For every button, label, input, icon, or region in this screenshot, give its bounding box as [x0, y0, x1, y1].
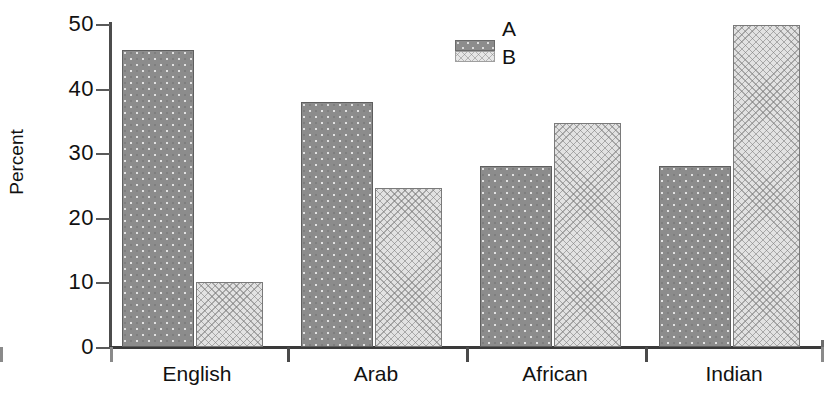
legend-swatch-a: [455, 40, 495, 51]
x-label-african: African: [490, 362, 620, 386]
figure-caption: [0, 392, 833, 403]
bar-english-b[interactable]: [196, 282, 263, 347]
y-tick-label-50: 50: [48, 13, 94, 35]
y-tick-label-20-wrap: 20: [38, 207, 94, 229]
y-tick-label-50-wrap: 50: [38, 13, 94, 35]
legend: A B: [452, 18, 572, 70]
y-tick-20: [96, 218, 110, 220]
legend-swatch-b: [455, 51, 495, 62]
x-tick-right-edge: [821, 347, 824, 362]
bar-arab-a[interactable]: [301, 102, 373, 347]
y-tick-label-20: 20: [48, 207, 94, 229]
x-tick-sep-1: [287, 347, 290, 362]
legend-label-a: A: [502, 18, 516, 40]
y-tick-30: [96, 153, 110, 155]
y-tick-label-0-wrap: 0: [38, 336, 94, 358]
x-label-arab: Arab: [311, 362, 441, 386]
y-axis-title: Percent: [7, 82, 27, 242]
bar-chart: Percent 50 40 30 20 10 0 English: [0, 0, 833, 403]
x-label-indian: Indian: [669, 362, 799, 386]
y-tick-label-10-wrap: 10: [38, 271, 94, 293]
y-tick-label-10: 10: [48, 271, 94, 293]
plot-area: [110, 24, 823, 347]
bar-indian-b[interactable]: [733, 25, 800, 347]
y-tick-0: [96, 347, 110, 349]
x-tick-sep-3: [645, 347, 648, 362]
bar-african-a[interactable]: [480, 166, 552, 347]
x-label-english: English: [132, 362, 262, 386]
x-tick-sep-2: [466, 347, 469, 362]
y-tick-10: [96, 282, 110, 284]
y-tick-40: [96, 89, 110, 91]
y-tick-label-0: 0: [48, 336, 94, 358]
y-tick-50: [96, 24, 110, 26]
y-tick-label-30: 30: [48, 142, 94, 164]
y-tick-label-40-wrap: 40: [38, 78, 94, 100]
x-tick-left-edge: [110, 347, 113, 362]
bar-arab-b[interactable]: [375, 188, 442, 347]
y-tick-label-30-wrap: 30: [38, 142, 94, 164]
bar-african-b[interactable]: [554, 123, 621, 347]
legend-label-b: B: [502, 46, 516, 68]
y-tick-label-40: 40: [48, 78, 94, 100]
bar-indian-a[interactable]: [659, 166, 731, 347]
bar-english-a[interactable]: [122, 50, 194, 347]
